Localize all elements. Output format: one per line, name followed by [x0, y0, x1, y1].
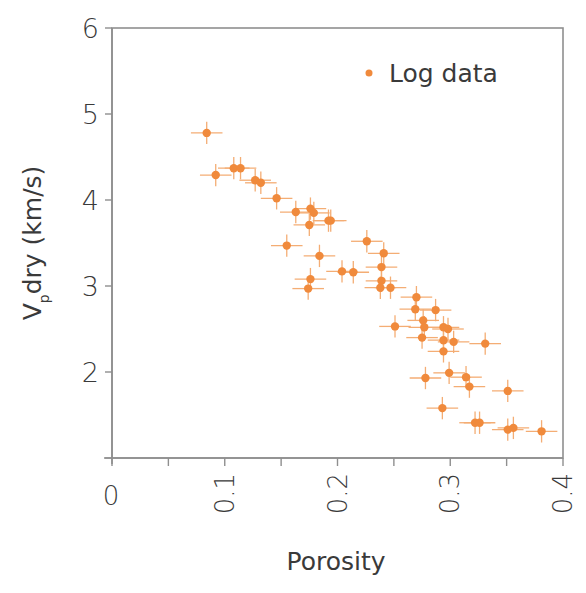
y-axis-tick-labels: 23456	[82, 13, 99, 388]
data-point	[386, 284, 394, 292]
data-point	[327, 216, 335, 224]
y-axis-title-subscript: p	[36, 294, 52, 303]
data-point	[272, 194, 280, 202]
data-point	[439, 347, 447, 355]
data-point	[391, 322, 399, 330]
data-point	[304, 284, 312, 292]
data-point	[203, 129, 211, 137]
data-point	[411, 305, 419, 313]
data-point	[305, 221, 313, 229]
y-axis-title: Vpdry (km/s)	[18, 166, 52, 321]
legend: Log data	[366, 59, 498, 88]
data-point	[310, 209, 318, 217]
data-point	[509, 424, 517, 432]
y-tick-label: 4	[82, 185, 99, 216]
data-point	[212, 171, 220, 179]
x-tick-label: 0.3	[435, 473, 465, 514]
data-point	[418, 333, 426, 341]
legend-label: Log data	[389, 59, 498, 88]
x-tick-label: 0.2	[323, 473, 353, 514]
data-point	[377, 263, 385, 271]
data-point	[338, 267, 346, 275]
y-axis-ticks	[105, 28, 112, 458]
y-axis-title-main: V	[18, 303, 47, 320]
x-tick-label: 0	[103, 481, 120, 511]
x-axis-ticks	[112, 458, 563, 466]
data-point	[380, 249, 388, 257]
data-point	[504, 387, 512, 395]
data-point	[315, 252, 323, 260]
data-point	[236, 164, 244, 172]
plot-frame	[112, 28, 563, 458]
data-point	[306, 275, 314, 283]
data-point	[481, 339, 489, 347]
data-point	[465, 382, 473, 390]
data-point	[431, 306, 439, 314]
data-point	[439, 336, 447, 344]
x-tick-label: 0.1	[210, 473, 240, 514]
scatter-chart: 00.10.20.30.4 23456 Log data Porosity Vp…	[0, 0, 586, 593]
data-point	[363, 237, 371, 245]
data-point	[257, 179, 265, 187]
x-axis-title: Porosity	[286, 547, 385, 576]
data-points	[203, 129, 546, 436]
data-point	[475, 419, 483, 427]
data-point	[445, 369, 453, 377]
data-point	[462, 373, 470, 381]
data-point	[349, 268, 357, 276]
data-point	[292, 208, 300, 216]
data-point	[438, 404, 446, 412]
data-point	[449, 338, 457, 346]
x-axis-tick-labels: 00.10.20.30.4	[103, 473, 578, 514]
y-tick-label: 2	[82, 357, 99, 388]
data-point	[412, 293, 420, 301]
y-tick-label: 3	[82, 271, 99, 302]
y-axis-title-rest: dry (km/s)	[18, 166, 47, 295]
data-point	[421, 374, 429, 382]
error-bars	[191, 122, 557, 443]
data-point	[537, 427, 545, 435]
y-tick-label: 6	[82, 13, 99, 44]
x-tick-label: 0.4	[548, 473, 578, 514]
legend-marker-icon	[366, 70, 373, 77]
svg-text:Vpdry (km/s): Vpdry (km/s)	[18, 166, 52, 321]
data-point	[376, 284, 384, 292]
data-point	[444, 325, 452, 333]
data-point	[283, 241, 291, 249]
data-point	[420, 323, 428, 331]
y-tick-label: 5	[82, 99, 99, 130]
